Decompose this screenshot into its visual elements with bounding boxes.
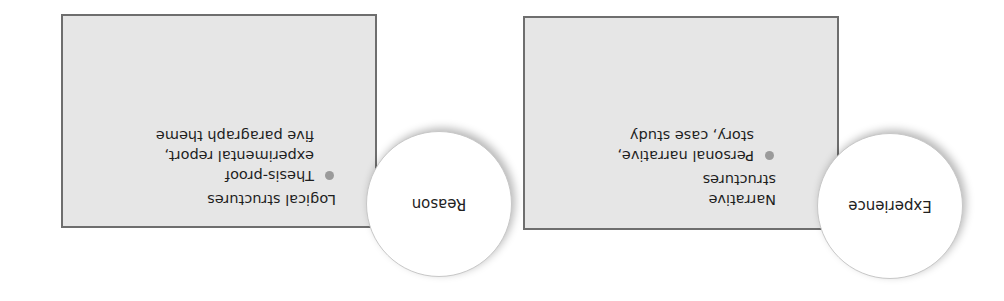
experience-circle: Experience (817, 133, 963, 279)
experience-circle-label: Experience (848, 197, 932, 215)
reason-bullet-item: Thesis-proof experimental report, five p… (76, 126, 336, 186)
reason-heading-line-1: Logical structures (76, 190, 336, 210)
experience-bullet-line-2: story, case study (536, 126, 754, 146)
experience-heading-line-1: Narrative (536, 190, 776, 210)
reason-bullet-line-3: five paragraph theme (76, 126, 314, 146)
reason-circle: Reason (366, 131, 512, 277)
reason-circle-label: Reason (412, 195, 467, 213)
bullet-dot-icon (765, 151, 774, 160)
experience-heading: Narrative structures (536, 170, 776, 210)
reason-heading: Logical structures (76, 190, 336, 210)
reason-bullet-line-1: Thesis-proof (76, 166, 314, 186)
reason-bullet-line-2: experimental report, (76, 146, 314, 166)
experience-heading-line-2: structures (536, 170, 776, 190)
bullet-dot-icon (325, 171, 334, 180)
experience-bullet-item: Personal narrative, story, case study (536, 126, 776, 166)
experience-box-content: Narrative structures Personal narrative,… (536, 126, 776, 210)
experience-bullet-line-1: Personal narrative, (536, 146, 754, 166)
diagram-stage: Experience Narrative structures Personal… (0, 0, 1004, 301)
reason-box-content: Logical structures Thesis-proof experime… (76, 126, 336, 210)
